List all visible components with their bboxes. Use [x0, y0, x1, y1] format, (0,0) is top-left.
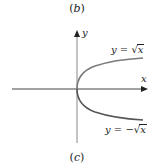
equation-lower-radicand: x: [139, 124, 147, 135]
y-axis-arrow-icon: [74, 30, 80, 37]
bottom-caption-text: c: [74, 151, 80, 164]
equation-upper-radicand: x: [137, 44, 145, 55]
equation-upper: y = √x: [111, 44, 144, 55]
equation-lower: y = −√x: [105, 124, 147, 135]
curve-upper-sqrt: [77, 58, 143, 89]
equation-upper-lhs: y =: [111, 44, 131, 55]
x-axis-arrow-icon: [141, 86, 148, 92]
curve-lower-neg-sqrt: [77, 89, 143, 120]
bottom-caption: (c): [57, 151, 97, 164]
y-axis-label: y: [82, 27, 88, 38]
equation-lower-sign: −: [125, 124, 133, 135]
x-axis-label: x: [141, 73, 147, 84]
equation-lower-lhs: y =: [105, 124, 125, 135]
graph: [0, 0, 158, 168]
